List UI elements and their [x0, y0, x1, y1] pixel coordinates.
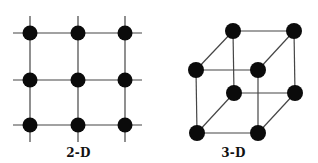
- cube-node: [226, 85, 242, 101]
- cube-node: [188, 62, 204, 78]
- lattice-node: [118, 26, 133, 41]
- cube-edge: [294, 31, 295, 93]
- lattice-node: [118, 118, 133, 133]
- cube-node: [250, 62, 266, 78]
- cube-edge: [258, 93, 295, 133]
- panel-label-2d: 2-D: [66, 146, 91, 160]
- lattice-node: [71, 73, 86, 88]
- cubic-lattice-panel: [188, 23, 303, 141]
- lattice-node: [71, 26, 86, 41]
- square-lattice-panel: [13, 16, 142, 142]
- cube-edge: [197, 93, 234, 133]
- cube-node: [287, 85, 303, 101]
- cube-node: [189, 125, 205, 141]
- lattice-node: [118, 73, 133, 88]
- diagram-canvas: 2-D 3-D: [0, 0, 318, 163]
- lattice-figure: 2-D 3-D: [0, 0, 318, 163]
- cube-edge: [196, 70, 197, 133]
- lattice-node: [23, 26, 38, 41]
- cube-node: [286, 23, 302, 39]
- lattice-node: [71, 118, 86, 133]
- lattice-node: [23, 73, 38, 88]
- cube-edge: [196, 31, 233, 70]
- cube-node: [225, 23, 241, 39]
- lattice-node: [23, 118, 38, 133]
- cube-node: [250, 125, 266, 141]
- panel-label-3d: 3-D: [221, 146, 246, 160]
- cube-edge: [233, 31, 234, 93]
